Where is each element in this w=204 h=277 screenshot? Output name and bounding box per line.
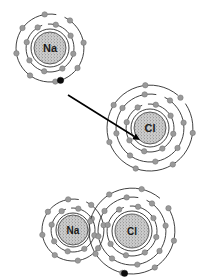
electron <box>151 215 156 220</box>
atoms-layer: NaClNaCl <box>14 12 196 277</box>
electron <box>120 105 125 110</box>
arrow-shaft <box>68 95 134 136</box>
electron <box>167 98 172 103</box>
electron <box>157 248 162 253</box>
electron <box>27 58 32 63</box>
electron <box>51 239 56 244</box>
electron <box>168 113 173 118</box>
electron <box>60 66 65 71</box>
transferred-electron <box>57 77 63 83</box>
electron <box>149 201 154 206</box>
electron <box>81 40 86 45</box>
electron <box>123 253 128 258</box>
electron <box>133 166 138 171</box>
electron <box>107 139 112 144</box>
electron <box>135 204 140 209</box>
electron <box>139 186 144 191</box>
electron <box>68 33 73 38</box>
electron <box>142 250 147 255</box>
electron <box>171 131 176 136</box>
electron <box>111 102 116 107</box>
electron <box>181 120 186 125</box>
electron <box>175 145 180 150</box>
electron <box>20 25 25 30</box>
electron <box>135 262 140 267</box>
electron <box>142 92 147 97</box>
electron <box>143 83 148 88</box>
electron <box>109 256 114 261</box>
electron <box>190 130 195 135</box>
electron <box>59 208 64 213</box>
electron <box>53 22 58 27</box>
electron <box>24 39 29 44</box>
electron <box>160 146 165 151</box>
electron <box>108 241 113 246</box>
atom-na_top: Na <box>14 12 87 85</box>
electron <box>154 234 159 239</box>
electron <box>41 69 46 74</box>
element-symbol-label: Na <box>43 42 58 54</box>
electron <box>52 252 57 257</box>
electron <box>141 149 146 154</box>
electron <box>107 192 112 197</box>
electron <box>71 51 76 56</box>
electron <box>87 219 92 224</box>
electron <box>170 162 175 167</box>
electron <box>96 234 101 239</box>
electron <box>102 208 107 213</box>
electron <box>95 246 100 251</box>
electron <box>105 222 110 227</box>
transferred-electron <box>121 270 127 276</box>
electron <box>152 265 157 270</box>
electron <box>178 95 183 100</box>
electron <box>124 119 129 124</box>
electron <box>127 153 132 158</box>
electron <box>76 206 81 211</box>
ionic-bonding-diagram: NaClNaCl <box>0 0 204 277</box>
electron <box>163 223 168 228</box>
electron <box>75 258 80 263</box>
electron <box>89 202 94 207</box>
electron <box>67 18 72 23</box>
electron <box>153 159 158 164</box>
element-symbol-label: Na <box>67 225 80 236</box>
electron <box>49 222 54 227</box>
electron <box>65 197 70 202</box>
electron <box>40 232 45 237</box>
electron <box>153 102 158 107</box>
electron <box>114 131 119 136</box>
electron <box>124 195 129 200</box>
electron-transfer-arrow <box>68 95 140 140</box>
electron <box>135 105 140 110</box>
electron <box>65 249 70 254</box>
electron <box>35 25 40 30</box>
atom-cl_bottom: Cl <box>87 186 176 276</box>
diagram-canvas: NaClNaCl <box>0 0 204 277</box>
electron <box>14 51 19 56</box>
electron <box>27 73 32 78</box>
electron <box>75 65 80 70</box>
electron <box>116 207 121 212</box>
electron <box>93 251 98 256</box>
element-symbol-label: Cl <box>145 122 156 134</box>
electron <box>171 238 176 243</box>
electron <box>127 138 132 143</box>
electron <box>166 206 171 211</box>
electron <box>45 209 50 214</box>
electron <box>82 246 87 251</box>
electron <box>42 12 47 17</box>
element-symbol-label: Cl <box>127 226 137 237</box>
